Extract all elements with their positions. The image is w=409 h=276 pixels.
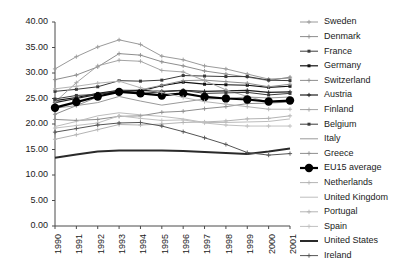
legend-item-label: Germany — [324, 60, 362, 70]
legend-item: United States — [300, 235, 379, 245]
y-axis-ticks: 0.005.0010.0015.0020.0025.0030.0035.0040… — [25, 16, 55, 230]
x-axis-tick-label: 1991 — [74, 234, 84, 254]
legend-item-label: United States — [324, 235, 379, 245]
legend-item: Belgium — [300, 119, 357, 129]
legend-item: Ireland — [300, 250, 352, 260]
x-axis-tick-label: 1999 — [245, 234, 255, 254]
legend-item-label: Switzerland — [324, 75, 371, 85]
chart-canvas: 0.005.0010.0015.0020.0025.0030.0035.0040… — [0, 0, 409, 276]
legend-item: United Kingdom — [300, 192, 388, 202]
x-axis-tick-label: 1993 — [117, 234, 127, 254]
legend-item-label: Finland — [324, 104, 354, 114]
legend-item: Switzerland — [300, 75, 371, 85]
legend-item: Portugal — [300, 206, 358, 216]
legend-item: Italy — [300, 133, 341, 143]
legend-item-label: Austria — [324, 89, 352, 99]
x-axis-tick-label: 1992 — [96, 234, 106, 254]
x-axis-ticks: 1990199119921993199419951996199719981999… — [53, 226, 298, 254]
legend-item-label: Spain — [324, 221, 347, 231]
legend-item: Austria — [300, 89, 352, 99]
legend-item-label: Ireland — [324, 250, 352, 260]
x-axis-tick-label: 1997 — [202, 234, 212, 254]
y-axis-tick-label: 25.00 — [25, 93, 48, 103]
legend-item: Greece — [300, 148, 354, 158]
y-axis-tick-label: 0.00 — [30, 220, 48, 230]
y-axis-tick-label: 20.00 — [25, 118, 48, 128]
legend-item-label: Denmark — [324, 31, 361, 41]
legend-item-label: France — [324, 46, 352, 56]
legend-item-label: Portugal — [324, 206, 358, 216]
y-axis-tick-label: 15.00 — [25, 144, 48, 154]
x-axis-tick-label: 1994 — [138, 234, 148, 254]
legend-item-label: Italy — [324, 133, 341, 143]
legend-item-label: United Kingdom — [324, 192, 388, 202]
legend-item-label: Sweden — [324, 16, 357, 26]
legend-item-label: Belgium — [324, 119, 357, 129]
legend-item: Germany — [300, 60, 362, 70]
y-axis-tick-label: 5.00 — [30, 195, 48, 205]
x-axis-tick-label: 2000 — [267, 234, 277, 254]
chart-series-group — [51, 38, 294, 158]
x-axis-tick-label: 1995 — [160, 234, 170, 254]
legend-item-label: Greece — [324, 148, 354, 158]
x-axis-tick-label: 1990 — [53, 234, 63, 254]
legend-item: EU15 average — [300, 162, 382, 172]
legend-item: Spain — [300, 221, 347, 231]
y-axis-tick-label: 35.00 — [25, 42, 48, 52]
y-axis-tick-label: 40.00 — [25, 16, 48, 26]
legend-item: France — [300, 46, 352, 56]
x-axis-tick-label: 2001 — [288, 234, 298, 254]
legend-item: Netherlands — [300, 177, 373, 187]
chart-legend: SwedenDenmarkFranceGermanySwitzerlandAus… — [300, 16, 388, 260]
x-axis-tick-label: 1998 — [224, 234, 234, 254]
chart-series — [53, 38, 292, 81]
line-chart: 0.005.0010.0015.0020.0025.0030.0035.0040… — [0, 0, 409, 276]
legend-item-label: Netherlands — [324, 177, 373, 187]
y-axis-tick-label: 10.00 — [25, 169, 48, 179]
legend-item: Sweden — [300, 16, 357, 26]
legend-item: Finland — [300, 104, 354, 114]
x-axis-tick-label: 1996 — [181, 234, 191, 254]
legend-item: Denmark — [300, 31, 361, 41]
legend-item-label: EU15 average — [324, 162, 382, 172]
y-axis-tick-label: 30.00 — [25, 67, 48, 77]
